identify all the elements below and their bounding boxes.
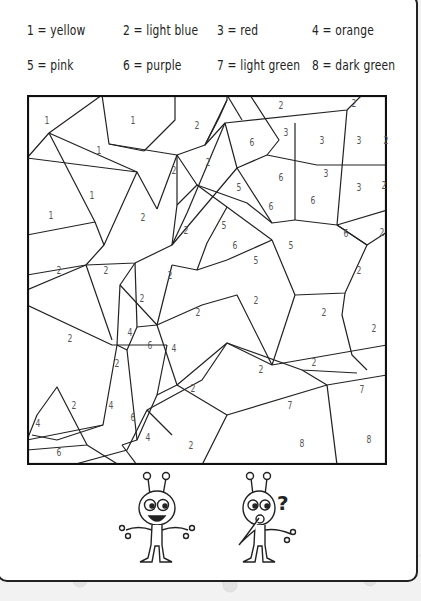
region-number[interactable]: 2 — [380, 227, 385, 238]
region-number[interactable]: 6 — [57, 447, 62, 458]
legend-item-7: 7 = light green — [217, 57, 300, 73]
legend-item-3: 3 = red — [217, 22, 258, 38]
region-number[interactable]: 2 — [279, 100, 284, 111]
region-number[interactable]: 7 — [360, 384, 365, 395]
region-number[interactable]: 4 — [36, 418, 41, 429]
region-number[interactable]: 6 — [269, 201, 274, 212]
region-number[interactable]: 2 — [352, 98, 357, 109]
region-number[interactable]: 6 — [250, 137, 255, 148]
region-number[interactable]: 4 — [109, 400, 114, 411]
region-number[interactable]: 1 — [90, 190, 95, 201]
region-number[interactable]: 2 — [384, 135, 389, 146]
region-number[interactable]: 2 — [140, 293, 145, 304]
region-number[interactable]: 4 — [172, 343, 177, 354]
region-number[interactable]: 1 — [131, 115, 136, 126]
region-number[interactable]: 2 — [189, 440, 194, 451]
legend-item-4: 4 = orange — [312, 22, 374, 38]
region-number[interactable]: 5 — [289, 240, 294, 251]
legend-item-2: 2 = light blue — [123, 22, 198, 38]
region-number[interactable]: 2 — [322, 307, 327, 318]
region-number[interactable]: 2 — [172, 165, 177, 176]
region-number[interactable]: 2 — [372, 323, 377, 334]
happy-alien-illustration — [118, 470, 198, 570]
region-number[interactable]: 2 — [68, 333, 73, 344]
region-number[interactable]: 3 — [324, 168, 329, 179]
region-number[interactable]: 2 — [259, 364, 264, 375]
region-number[interactable]: 6 — [311, 195, 316, 206]
region-number[interactable]: 2 — [206, 157, 211, 168]
region-number[interactable]: 2 — [72, 400, 77, 411]
region-number[interactable]: 8 — [367, 434, 372, 445]
region-number[interactable]: 2 — [168, 270, 173, 281]
region-number[interactable]: 1 — [97, 145, 102, 156]
color-legend: 1 = yellow 2 = light blue 3 = red 4 = or… — [0, 0, 421, 90]
region-number[interactable]: 2 — [196, 307, 201, 318]
legend-item-1: 1 = yellow — [27, 22, 85, 38]
question-mark-icon: ? — [277, 491, 289, 515]
region-number[interactable]: 6 — [233, 240, 238, 251]
region-number[interactable]: 1 — [49, 210, 54, 221]
region-number[interactable]: 5 — [237, 182, 242, 193]
region-number[interactable]: 5 — [222, 220, 227, 231]
region-number[interactable]: 6 — [344, 228, 349, 239]
region-number[interactable]: 7 — [288, 400, 293, 411]
region-number[interactable]: 2 — [184, 225, 189, 236]
region-number[interactable]: 4 — [128, 327, 133, 338]
region-number[interactable]: 2 — [191, 383, 196, 394]
region-number[interactable]: 2 — [357, 265, 362, 276]
region-number[interactable]: 6 — [148, 340, 153, 351]
region-number[interactable]: 2 — [57, 265, 62, 276]
region-number[interactable]: 2 — [382, 180, 387, 191]
color-by-number-puzzle[interactable]: 1 1 2 2 2 1 6 3 3 3 2 2 2 5 6 3 3 2 1 1 … — [27, 95, 387, 465]
puzzle-outline — [27, 95, 387, 465]
region-number[interactable]: 2 — [115, 358, 120, 369]
region-number[interactable]: 6 — [131, 412, 136, 423]
region-number[interactable]: 3 — [357, 135, 362, 146]
region-number[interactable]: 2 — [195, 120, 200, 131]
legend-item-8: 8 = dark green — [312, 57, 395, 73]
region-number[interactable]: 4 — [146, 432, 151, 443]
region-number[interactable]: 6 — [279, 172, 284, 183]
region-number[interactable]: 2 — [141, 212, 146, 223]
region-number[interactable]: 3 — [320, 135, 325, 146]
region-number[interactable]: 2 — [254, 295, 259, 306]
region-number[interactable]: 1 — [45, 115, 50, 126]
region-number[interactable]: 2 — [312, 357, 317, 368]
region-number[interactable]: 2 — [104, 265, 109, 276]
legend-item-5: 5 = pink — [27, 57, 74, 73]
region-number[interactable]: 5 — [254, 255, 259, 266]
region-number[interactable]: 3 — [357, 182, 362, 193]
legend-item-6: 6 = purple — [123, 57, 182, 73]
region-number[interactable]: 8 — [300, 438, 305, 449]
thinking-alien-illustration: ? — [233, 470, 313, 570]
region-number[interactable]: 3 — [284, 127, 289, 138]
